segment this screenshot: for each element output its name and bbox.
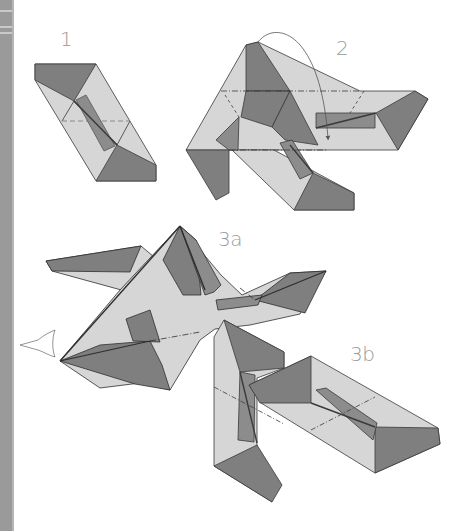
step-2-figure bbox=[186, 32, 428, 210]
step-label-2: 2 bbox=[336, 36, 348, 60]
step-1-figure bbox=[35, 64, 156, 181]
hollow-arrow-right-icon bbox=[20, 330, 55, 357]
step-label-3b: 3b bbox=[350, 342, 374, 366]
step-label-1: 1 bbox=[60, 27, 72, 51]
origami-diagram bbox=[0, 0, 461, 531]
step-3b-figure bbox=[214, 320, 440, 502]
step-label-3a: 3a bbox=[218, 227, 242, 251]
